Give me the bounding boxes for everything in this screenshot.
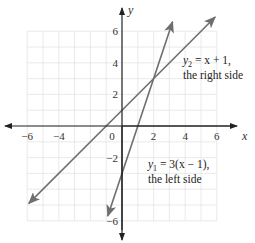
annotation-right-desc: the right side (183, 69, 243, 82)
x-tick-label: 6 (214, 130, 220, 142)
y-tick-label: −6 (106, 215, 118, 227)
annotation-right: y2 = x + 1, (182, 54, 231, 69)
y-tick-label: −2 (106, 152, 118, 164)
x-tick-label: 0 (109, 130, 115, 142)
series-line (140, 22, 172, 119)
y-tick-label: 6 (113, 25, 119, 37)
x-tick-label: −6 (21, 130, 33, 142)
annotation-left-desc: the left side (148, 173, 202, 185)
y-axis-label: y (127, 3, 134, 17)
x-tick-label: −4 (53, 130, 65, 142)
y-tick-label: 2 (113, 88, 119, 100)
x-axis-label: x (241, 129, 248, 143)
annotation-left: y1 = 3(x − 1), (147, 158, 209, 173)
y-tick-label: 4 (113, 57, 119, 69)
graph: −6−40246642−2−6 x y y2 = x + 1, the righ… (0, 0, 255, 243)
x-tick-label: 4 (182, 130, 188, 142)
x-tick-label: 2 (151, 130, 157, 142)
